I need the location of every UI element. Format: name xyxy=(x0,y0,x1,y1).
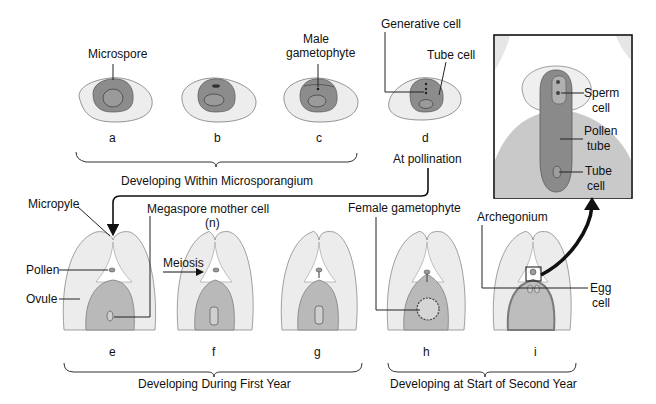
stage-e-ovule xyxy=(63,232,155,330)
stage-g-ovule xyxy=(281,231,357,330)
n-label: (n) xyxy=(205,216,220,230)
tube-cell-label-1: Tube xyxy=(585,164,612,178)
pollen-tube-label-2: tube xyxy=(587,139,611,153)
group-label-second-year: Developing at Start of Second Year xyxy=(390,377,577,391)
archegonium-label: Archegonium xyxy=(477,210,548,224)
stage-label-f: f xyxy=(212,345,216,359)
stage-label-e: e xyxy=(109,345,116,359)
group-label-microsporangium: Developing Within Microsporangium xyxy=(121,174,313,188)
stage-a-microspore xyxy=(79,78,152,122)
stage-label-h: h xyxy=(423,345,430,359)
stage-c-male-gametophyte xyxy=(284,78,358,122)
stage-label-g: g xyxy=(314,345,321,359)
sperm-cell-label-1: Sperm xyxy=(584,86,619,100)
stage-h-ovule xyxy=(387,231,465,330)
brace-second-year xyxy=(388,363,576,377)
brace-first-year xyxy=(64,363,362,377)
male-gametophyte-label-1: Male xyxy=(303,32,329,46)
meiosis-label: Meiosis xyxy=(163,256,204,270)
generative-cell-label: Generative cell xyxy=(381,17,461,31)
stage-d-pollen xyxy=(389,78,461,120)
stage-f-ovule xyxy=(177,231,253,330)
tube-cell-top-label: Tube cell xyxy=(427,48,475,62)
at-pollination-label: At pollination xyxy=(393,152,462,166)
ovule-label: Ovule xyxy=(26,292,58,306)
tube-cell-label-2: cell xyxy=(587,179,605,193)
stage-label-d: d xyxy=(422,131,429,145)
egg-cell-label-2: cell xyxy=(592,296,610,310)
pine-lifecycle-diagram: Microspore a b Male gametophyte c Genera… xyxy=(0,0,656,404)
brace-microsporangium xyxy=(76,152,357,167)
stage-label-c: c xyxy=(316,131,322,145)
megaspore-mother-cell-label: Megaspore mother cell xyxy=(147,202,269,216)
sperm-cell-label-2: cell xyxy=(592,101,610,115)
female-gametophyte-label: Female gametophyte xyxy=(348,201,461,215)
stage-b-microspore xyxy=(182,78,256,122)
pollen-label: Pollen xyxy=(26,263,59,277)
stage-i-ovule xyxy=(493,231,571,330)
microspore-label: Microspore xyxy=(88,47,148,61)
male-gametophyte-label-2: gametophyte xyxy=(286,46,356,60)
pollen-tube-label-1: Pollen xyxy=(584,124,617,138)
micropyle-label: Micropyle xyxy=(28,197,80,211)
stage-label-a: a xyxy=(109,131,116,145)
stage-label-b: b xyxy=(214,131,221,145)
stage-label-i: i xyxy=(534,345,537,359)
group-label-first-year: Developing During First Year xyxy=(138,377,291,391)
egg-cell-label-1: Egg xyxy=(590,281,611,295)
